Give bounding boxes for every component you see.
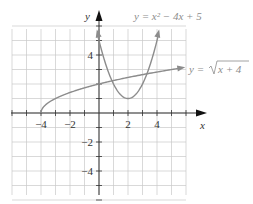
axes: [11, 10, 207, 200]
y-tick-label: −2: [81, 136, 93, 148]
x-tick-label: −2: [64, 118, 76, 130]
x-tick-label: 4: [154, 118, 160, 130]
x-axis-label: x: [199, 119, 205, 131]
parabola-equation-label: y = x² − 4x + 5: [133, 10, 202, 22]
sqrt-equation-label: y = x + 4: [188, 61, 249, 75]
x-tick-label: 2: [125, 118, 131, 130]
y-axis-arrow-icon: [96, 10, 103, 21]
curves: [41, 29, 185, 113]
sqrt-equation-prefix: y =: [188, 63, 204, 75]
y-tick-label: −4: [81, 165, 93, 177]
x-tick-label: −4: [35, 118, 47, 130]
x-axis-arrow-icon: [196, 110, 207, 117]
y-axis-label: y: [84, 10, 90, 22]
graph: −4−2244−2−4xyy = x² − 4x + 5y = x + 4: [0, 0, 253, 204]
y-tick-label: 4: [88, 49, 94, 61]
sqrt-equation-radicand: x + 4: [217, 63, 242, 75]
sqrt-right-arrow-icon: [177, 66, 185, 72]
sqrt-curve: [41, 68, 180, 113]
